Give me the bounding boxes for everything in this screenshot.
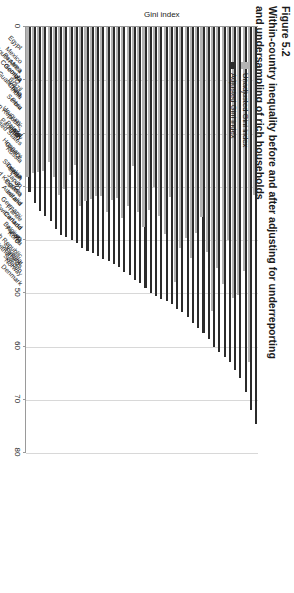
bar-adjusted xyxy=(86,27,88,251)
figure-header: Figure 5.2 Within-country inequality bef… xyxy=(254,6,292,566)
value-axis: 01020304050607080 xyxy=(25,26,26,452)
chart-legend: Unadjusted Gini index Adjusted Gini inde… xyxy=(226,62,250,147)
bar-group xyxy=(89,27,94,452)
bar-group xyxy=(137,27,142,452)
legend-label-adjusted: Adjusted Gini index xyxy=(228,73,238,138)
bar-unadjusted xyxy=(222,27,224,284)
bar-unadjusted xyxy=(153,27,155,187)
bar-adjusted xyxy=(28,27,30,192)
axis-tick xyxy=(23,452,26,453)
bar-adjusted xyxy=(71,27,73,240)
bar-group xyxy=(142,27,147,452)
bar-group xyxy=(84,27,89,452)
bar-group xyxy=(47,27,52,452)
bar-unadjusted xyxy=(26,27,28,177)
bar-adjusted xyxy=(213,27,215,347)
gridline xyxy=(26,453,258,454)
figure-title-line-1: Within-country inequality before and aft… xyxy=(267,6,280,546)
bar-unadjusted xyxy=(169,27,171,197)
bar-group xyxy=(116,27,121,452)
bar-group xyxy=(110,27,115,452)
bar-group xyxy=(153,27,158,452)
bar-unadjusted xyxy=(37,27,39,172)
bar-group xyxy=(68,27,73,452)
bar-adjusted xyxy=(160,27,162,299)
bar-adjusted xyxy=(118,27,120,267)
legend-item-adjusted: Adjusted Gini index xyxy=(228,62,238,147)
bar-adjusted xyxy=(171,27,173,304)
bar-unadjusted xyxy=(116,27,118,198)
bar-unadjusted xyxy=(164,27,166,234)
bar-unadjusted xyxy=(90,27,92,199)
bar-unadjusted xyxy=(53,27,55,177)
figure-number: Figure 5.2 xyxy=(280,6,292,566)
bar-unadjusted xyxy=(190,27,192,258)
bar-unadjusted xyxy=(132,27,134,166)
bar-adjusted xyxy=(123,27,125,272)
bar-group xyxy=(37,27,42,452)
bar-group xyxy=(163,27,168,452)
bar-adjusted xyxy=(250,27,252,410)
bar-adjusted xyxy=(39,27,41,211)
bar-unadjusted xyxy=(179,27,181,248)
bar-unadjusted xyxy=(74,27,76,165)
bar-unadjusted xyxy=(253,27,255,195)
bar-unadjusted xyxy=(106,27,108,212)
bar-group xyxy=(216,27,221,452)
legend-label-unadjusted: Unadjusted Gini index xyxy=(240,73,250,147)
bar-group xyxy=(63,27,68,452)
bar-group xyxy=(105,27,110,452)
bar-unadjusted xyxy=(32,27,34,173)
bar-unadjusted xyxy=(63,27,65,189)
bar-group xyxy=(131,27,136,452)
bar-unadjusted xyxy=(42,27,44,171)
bar-group xyxy=(31,27,36,452)
bar-group xyxy=(121,27,126,452)
bar-unadjusted xyxy=(142,27,144,227)
bar-adjusted xyxy=(150,27,152,293)
bar-unadjusted xyxy=(69,27,71,175)
bar-group xyxy=(195,27,200,452)
bar-unadjusted xyxy=(211,27,213,311)
bar-group xyxy=(95,27,100,452)
bar-unadjusted xyxy=(111,27,113,200)
plot-inner xyxy=(26,27,258,452)
bar-group xyxy=(158,27,163,452)
bar-unadjusted xyxy=(79,27,81,206)
bar-adjusted xyxy=(44,27,46,216)
bar-adjusted xyxy=(176,27,178,309)
bar-adjusted xyxy=(76,27,78,243)
bar-unadjusted xyxy=(148,27,150,210)
bar-group xyxy=(147,27,152,452)
bar-adjusted xyxy=(166,27,168,301)
bar-unadjusted xyxy=(200,27,202,217)
bar-adjusted xyxy=(187,27,189,317)
bar-unadjusted xyxy=(127,27,129,206)
y-axis-title: Gini index xyxy=(144,10,180,19)
bar-group xyxy=(126,27,131,452)
bar-unadjusted xyxy=(216,27,218,268)
bar-unadjusted xyxy=(121,27,123,218)
bar-adjusted xyxy=(255,27,257,424)
bar-unadjusted xyxy=(84,27,86,201)
figure-rotator: Figure 5.2 Within-country inequality bef… xyxy=(0,0,294,593)
legend-swatch-adjusted-icon xyxy=(230,62,237,69)
bar-adjusted xyxy=(81,27,83,248)
figure-5-2: Figure 5.2 Within-country inequality bef… xyxy=(0,0,294,593)
bar-group xyxy=(79,27,84,452)
bar-adjusted xyxy=(144,27,146,288)
bar-group xyxy=(205,27,210,452)
bar-group xyxy=(189,27,194,452)
bar-adjusted xyxy=(155,27,157,296)
bar-unadjusted xyxy=(100,27,102,196)
bar-adjusted xyxy=(218,27,220,352)
legend-item-unadjusted: Unadjusted Gini index xyxy=(240,62,250,147)
bar-adjusted xyxy=(92,27,94,253)
bar-group xyxy=(52,27,57,452)
legend-swatch-unadjusted-icon xyxy=(242,62,249,69)
bar-unadjusted xyxy=(185,27,187,238)
bar-group xyxy=(73,27,78,452)
bar-unadjusted xyxy=(48,27,50,162)
bar-adjusted xyxy=(181,27,183,312)
bar-group xyxy=(184,27,189,452)
